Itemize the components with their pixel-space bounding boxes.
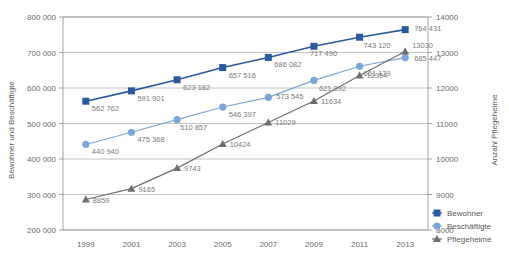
x-axis-ticks: 19992001200320052007200920112013 (77, 240, 415, 249)
data-point-label: 546 397 (229, 110, 256, 119)
chart-container: 200 000300 000400 000500 000600 000700 0… (0, 0, 509, 262)
x-axis-tick-label: 2001 (123, 240, 141, 249)
data-point-marker (82, 141, 89, 148)
left-axis-title: Bewohner und Beschäftigte (7, 81, 16, 179)
line-chart: 200 000300 000400 000500 000600 000700 0… (0, 0, 509, 262)
data-point-label: 440 940 (92, 147, 119, 156)
x-axis-tick-label: 1999 (77, 240, 95, 249)
chart-legend: BewohnerBeschäftigtePflegeheime (432, 209, 492, 244)
x-axis-tick-label: 2013 (396, 240, 414, 249)
data-point-label: 9165 (138, 185, 155, 194)
data-point-marker (356, 34, 363, 41)
data-point-marker (402, 26, 409, 33)
data-point-marker (174, 76, 181, 83)
data-point-marker (265, 54, 272, 61)
data-point-label: 11029 (275, 118, 295, 127)
data-point-marker (219, 103, 226, 110)
data-point-label: 621 392 (319, 84, 346, 93)
data-point-label: 12354 (367, 71, 388, 80)
data-point-label: 10424 (230, 140, 251, 149)
data-point-marker (219, 140, 227, 147)
left-axis-tick-label: 500 000 (27, 120, 56, 129)
data-point-label: 475 368 (137, 135, 164, 144)
x-axis-tick-label: 2011 (351, 240, 369, 249)
data-point-marker (310, 77, 317, 84)
data-point-label: 9743 (184, 164, 201, 173)
right-axis-title: Anzahl Pflegeheime (490, 94, 499, 166)
data-point-label: 8859 (93, 196, 110, 205)
right-axis-tick-label: 10000 (436, 155, 459, 164)
point-value-labels-group: 562 762591 901623 182657 516686 082717 4… (92, 24, 442, 205)
left-axis-tick-label: 200 000 (27, 226, 56, 235)
data-point-marker (402, 54, 409, 61)
data-point-marker (265, 94, 272, 101)
left-axis-tick-label: 800 000 (27, 13, 56, 22)
right-axis-tick-label: 11000 (436, 120, 458, 129)
data-point-label: 591 901 (137, 94, 164, 103)
legend-label: Pflegeheime (447, 235, 492, 244)
data-point-label: 686 082 (274, 60, 301, 69)
data-point-label: 13030 (412, 41, 433, 50)
x-axis-tick-label: 2005 (214, 240, 232, 249)
right-axis-tick-label: 12000 (436, 84, 459, 93)
data-point-label: 562 762 (92, 104, 119, 113)
data-point-marker (264, 118, 272, 125)
left-axis-tick-label: 600 000 (27, 84, 56, 93)
data-point-label: 623 182 (183, 83, 210, 92)
data-point-marker (219, 64, 226, 71)
data-point-marker (127, 185, 135, 192)
data-point-label: 510 857 (180, 123, 207, 132)
right-axis-tick-label: 14000 (436, 13, 459, 22)
legend-label: Beschäftigte (447, 222, 492, 231)
left-axis-tick-label: 300 000 (27, 191, 56, 200)
data-point-label: 11634 (321, 97, 341, 106)
data-point-marker (401, 47, 409, 54)
left-axis-tick-label: 400 000 (27, 155, 56, 164)
x-axis-tick-label: 2007 (259, 240, 277, 249)
left-axis-ticks: 200 000300 000400 000500 000600 000700 0… (27, 13, 63, 235)
x-axis-tick-label: 2009 (305, 240, 323, 249)
legend-label: Bewohner (447, 209, 483, 218)
data-point-marker (173, 164, 181, 171)
left-axis-tick-label: 700 000 (27, 49, 56, 58)
data-point-marker (82, 98, 89, 105)
data-point-marker (356, 71, 364, 78)
data-point-marker (356, 63, 363, 70)
data-point-label: 743 120 (364, 41, 391, 50)
data-point-label: 573 545 (276, 92, 303, 101)
data-point-label: 657 516 (229, 71, 256, 80)
data-point-marker (128, 129, 135, 136)
right-axis-tick-label: 9000 (436, 191, 454, 200)
data-point-marker (310, 97, 318, 104)
data-point-label: 717 490 (310, 49, 337, 58)
x-axis-tick-label: 2003 (168, 240, 186, 249)
data-point-marker (128, 87, 135, 94)
